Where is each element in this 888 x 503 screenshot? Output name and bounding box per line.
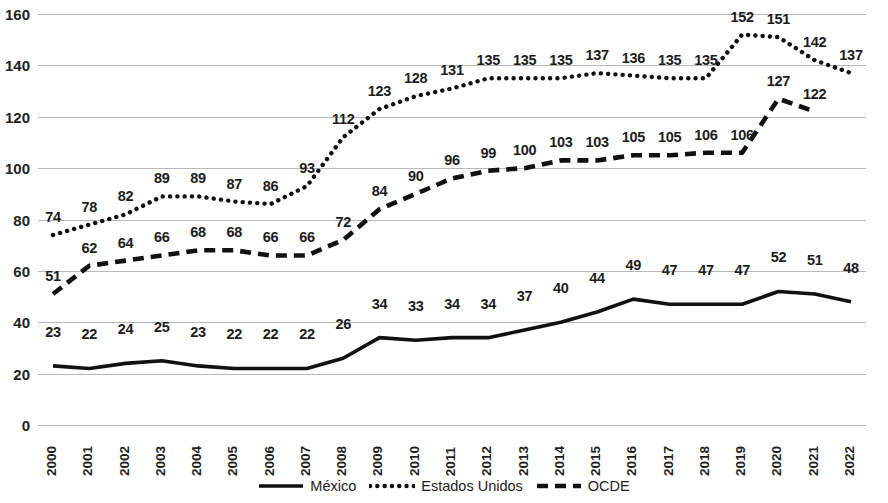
data-point-label: 137	[839, 47, 862, 63]
data-point-label: 106	[731, 127, 754, 143]
data-point-label: 47	[734, 262, 750, 278]
data-point-label: 51	[45, 268, 61, 284]
data-point-label: 47	[662, 262, 678, 278]
data-point-label: 99	[481, 145, 497, 161]
data-point-label: 106	[694, 127, 717, 143]
legend-key-icon	[536, 480, 582, 492]
x-axis-tick-label: 2021	[806, 446, 826, 476]
data-point-label: 135	[694, 52, 717, 68]
data-point-label: 103	[549, 134, 572, 150]
data-point-label: 47	[698, 262, 714, 278]
data-point-label: 152	[731, 9, 754, 25]
data-point-label: 122	[803, 86, 826, 102]
data-point-label: 66	[154, 229, 170, 245]
legend-item-1[interactable]: México	[258, 478, 356, 494]
data-point-label: 51	[807, 252, 823, 268]
data-point-label: 33	[408, 298, 424, 314]
legend-key-icon	[369, 480, 415, 492]
x-axis-tick-label: 2008	[334, 446, 354, 476]
legend-item-3[interactable]: OCDE	[536, 478, 630, 494]
data-point-label: 49	[626, 257, 642, 273]
x-axis: 2000200120022003200420052006200720082009…	[38, 428, 866, 476]
x-axis-tick-label: 2005	[225, 446, 245, 476]
data-point-label: 24	[118, 321, 134, 337]
data-point-label: 112	[332, 111, 355, 127]
x-axis-tick-label: 2001	[80, 446, 100, 476]
data-point-label: 89	[190, 170, 206, 186]
legend-item-2[interactable]: Estados Unidos	[369, 478, 523, 494]
data-point-label: 66	[263, 229, 279, 245]
x-axis-tick-label: 2013	[516, 446, 536, 476]
data-point-label: 25	[154, 319, 170, 335]
data-point-label: 151	[767, 11, 790, 27]
data-point-label: 105	[658, 129, 681, 145]
x-axis-tick-label: 2020	[769, 446, 789, 476]
x-axis-tick-label: 2014	[552, 446, 572, 476]
x-axis-tick-label: 2015	[588, 446, 608, 476]
data-point-label: 86	[263, 178, 279, 194]
x-axis-tick-label: 2003	[153, 446, 173, 476]
data-point-label: 64	[118, 235, 134, 251]
data-point-label: 136	[622, 50, 645, 66]
x-axis-tick-label: 2019	[733, 446, 753, 476]
data-point-label: 48	[843, 260, 859, 276]
data-point-label: 68	[227, 224, 243, 240]
data-point-label: 142	[803, 34, 826, 50]
x-axis-tick-label: 2017	[661, 446, 681, 476]
data-point-label: 135	[513, 52, 536, 68]
data-point-label: 135	[658, 52, 681, 68]
data-point-label: 68	[190, 224, 206, 240]
x-axis-tick-label: 2022	[842, 446, 862, 476]
data-point-label: 105	[622, 129, 645, 145]
legend-label: OCDE	[588, 478, 630, 494]
legend-label: México	[310, 478, 356, 494]
data-point-label: 96	[444, 152, 460, 168]
data-point-label: 23	[45, 324, 61, 340]
data-point-label: 89	[154, 170, 170, 186]
data-point-label: 66	[299, 229, 315, 245]
data-point-label: 62	[82, 240, 98, 256]
data-point-label: 44	[589, 270, 605, 286]
data-point-label: 135	[477, 52, 500, 68]
x-axis-tick-label: 2002	[117, 446, 137, 476]
chart-legend: MéxicoEstados UnidosOCDE	[0, 478, 888, 494]
data-point-label: 22	[299, 326, 315, 342]
legend-key-icon	[258, 480, 304, 492]
x-axis-tick-label: 2009	[370, 446, 390, 476]
data-point-label: 72	[335, 214, 351, 230]
x-axis-tick-label: 2016	[624, 446, 644, 476]
x-axis-tick-label: 2007	[298, 446, 318, 476]
data-point-label: 135	[549, 52, 572, 68]
data-point-label: 34	[372, 296, 388, 312]
data-point-label: 22	[227, 326, 243, 342]
data-point-label: 23	[190, 324, 206, 340]
data-point-label: 78	[82, 199, 98, 215]
data-point-label: 128	[404, 70, 427, 86]
x-axis-tick-label: 2011	[443, 447, 463, 476]
data-point-label: 82	[118, 188, 134, 204]
x-axis-tick-label: 2004	[189, 446, 209, 476]
data-point-label: 84	[372, 183, 388, 199]
data-point-label: 137	[585, 47, 608, 63]
x-axis-tick-label: 2010	[407, 446, 427, 476]
data-point-label: 40	[553, 280, 569, 296]
data-point-label: 37	[517, 288, 533, 304]
data-point-label: 74	[45, 209, 61, 225]
data-point-label: 93	[299, 160, 315, 176]
data-point-label: 52	[771, 249, 787, 265]
data-point-label: 100	[513, 142, 536, 158]
x-axis-tick-label: 2000	[44, 446, 64, 476]
data-point-label: 103	[585, 134, 608, 150]
legend-label: Estados Unidos	[421, 478, 523, 494]
data-point-label: 22	[263, 326, 279, 342]
x-axis-tick-label: 2018	[697, 446, 717, 476]
data-point-label: 22	[82, 326, 98, 342]
data-point-label: 34	[444, 296, 460, 312]
data-point-label: 34	[481, 296, 497, 312]
data-point-label: 127	[767, 73, 790, 89]
line-chart: 020406080100120140160 232224252322222226…	[0, 0, 888, 503]
x-axis-tick-label: 2006	[262, 446, 282, 476]
data-point-label: 90	[408, 168, 424, 184]
data-point-label: 123	[368, 83, 391, 99]
data-point-label: 131	[440, 62, 463, 78]
